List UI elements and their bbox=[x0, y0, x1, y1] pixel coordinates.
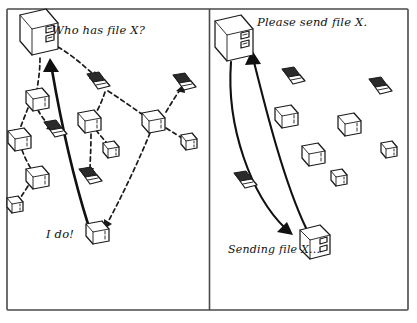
peer-node bbox=[338, 113, 361, 136]
caption-please-send: Please send file X. bbox=[256, 15, 367, 29]
peer-node bbox=[275, 105, 298, 128]
transfer-edge bbox=[230, 62, 293, 235]
peer-node bbox=[26, 166, 49, 189]
peer-node bbox=[181, 133, 197, 150]
figure-frame bbox=[7, 9, 408, 310]
peer-node-holder bbox=[86, 221, 109, 244]
peer-node bbox=[78, 110, 101, 133]
peer-node bbox=[142, 110, 165, 133]
peer-node bbox=[369, 77, 392, 94]
right-panel-nodes bbox=[215, 15, 397, 259]
peer-node bbox=[173, 73, 196, 90]
peer-node bbox=[79, 167, 102, 184]
diagram-canvas: Who has file X? I do! bbox=[0, 0, 417, 323]
peer-node bbox=[381, 141, 397, 158]
reply-edge bbox=[43, 58, 88, 224]
file-transfer-panel: Please send file X. Sending file X... bbox=[215, 15, 397, 259]
peer-node bbox=[282, 67, 305, 84]
peer-node bbox=[26, 88, 49, 111]
left-panel-nodes bbox=[7, 9, 197, 244]
peer-node bbox=[302, 143, 325, 166]
server-node bbox=[215, 15, 253, 61]
peer-node bbox=[234, 171, 257, 188]
caption-sending-file: Sending file X... bbox=[228, 243, 320, 256]
peer-node bbox=[103, 141, 119, 158]
query-flooding-panel: Who has file X? I do! bbox=[7, 9, 197, 244]
peer-node bbox=[331, 169, 347, 186]
peer-node bbox=[8, 128, 31, 151]
caption-who-has-file: Who has file X? bbox=[52, 23, 146, 37]
figure-root: Who has file X? I do! bbox=[0, 0, 417, 323]
peer-node bbox=[87, 72, 110, 89]
caption-i-do: I do! bbox=[45, 227, 74, 241]
peer-node bbox=[7, 196, 23, 213]
